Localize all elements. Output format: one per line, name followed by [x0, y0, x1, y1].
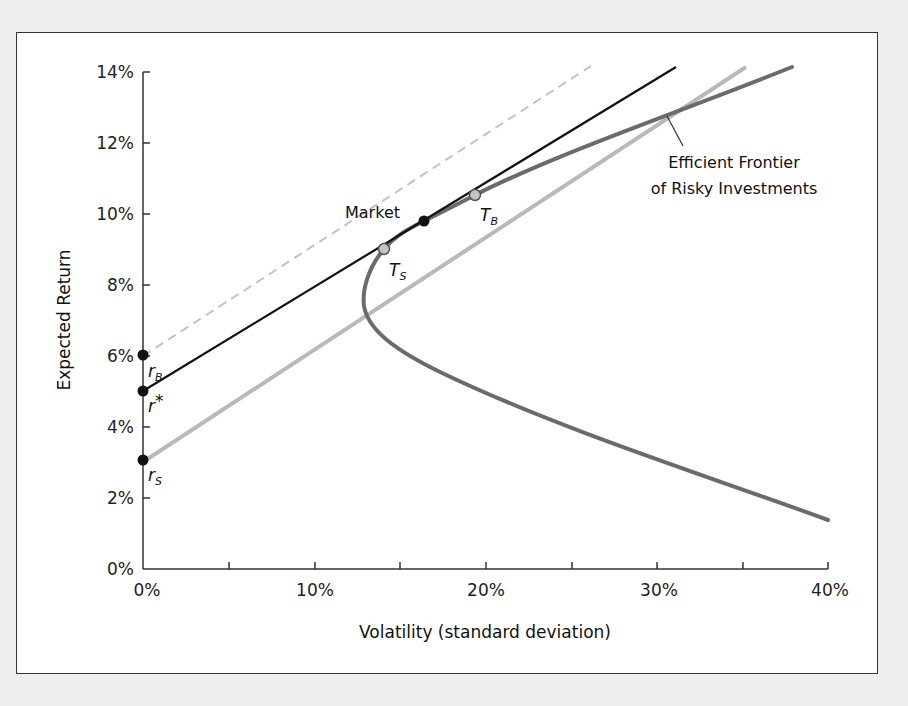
efficient-frontier-curve — [364, 67, 828, 520]
x-tick-0: 0% — [134, 580, 161, 600]
y-tick-10: 10% — [96, 204, 134, 224]
TB-label: TB — [480, 205, 498, 228]
rB-point — [138, 350, 149, 361]
y-tick-2: 2% — [107, 488, 134, 508]
chart-canvas: 14% 12% 10% 8% 6% 4% 2% 0% 0% 10% 20% 30… — [0, 0, 908, 706]
x-tick-20: 20% — [467, 580, 505, 600]
frontier-label-line2: of Risky Investments — [651, 179, 818, 198]
y-tick-12: 12% — [96, 133, 134, 153]
rB-label: rB — [148, 361, 163, 384]
rstar-point — [138, 386, 149, 397]
market-point — [419, 216, 430, 227]
rS-tangent-line — [143, 67, 746, 462]
y-tick-14: 14% — [96, 62, 134, 82]
rS-label: rS — [148, 465, 162, 488]
rstar-label: r* — [148, 391, 164, 416]
y-tick-0: 0% — [107, 559, 134, 579]
x-tick-30: 30% — [640, 580, 678, 600]
TS-label: TS — [389, 260, 406, 283]
frontier-label-line1: Efficient Frontier — [668, 153, 800, 172]
x-tick-40: 40% — [811, 580, 849, 600]
x-axis-title: Volatility (standard deviation) — [359, 622, 611, 642]
y-tick-8: 8% — [107, 275, 134, 295]
axes — [143, 72, 828, 569]
market-label: Market — [345, 203, 400, 222]
x-tick-labels: 0% 10% 20% 30% 40% — [134, 580, 849, 600]
x-tick-10: 10% — [296, 580, 334, 600]
rstar-market-line — [143, 67, 676, 391]
y-tick-6: 6% — [107, 346, 134, 366]
TB-point — [470, 190, 481, 201]
frontier-leader-line — [667, 116, 683, 146]
rS-point — [138, 455, 149, 466]
y-tick-labels: 14% 12% 10% 8% 6% 4% 2% 0% — [96, 62, 134, 579]
y-tick-4: 4% — [107, 417, 134, 437]
y-axis-title: Expected Return — [54, 249, 74, 390]
TS-point — [379, 244, 390, 255]
